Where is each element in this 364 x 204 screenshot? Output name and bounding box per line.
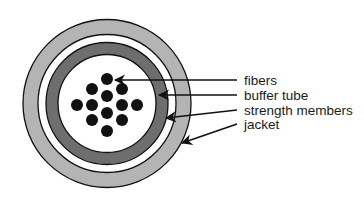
label-strength-members: strength members: [244, 103, 353, 118]
fiber: [116, 114, 128, 126]
fiber: [131, 99, 143, 111]
fiber: [86, 114, 98, 126]
fiber: [71, 99, 83, 111]
fiber: [86, 99, 98, 111]
fiber: [86, 83, 98, 95]
fiber: [116, 83, 128, 95]
jacket-arrow: [182, 124, 237, 143]
fiber: [101, 73, 113, 85]
fiber: [101, 90, 113, 102]
label-buffer-tube: buffer tube: [244, 88, 308, 103]
fiber: [116, 99, 128, 111]
cable-cross-section-diagram: fibers buffer tube strength members jack…: [0, 0, 364, 204]
fiber: [101, 125, 113, 137]
fiber: [101, 107, 113, 119]
label-fibers: fibers: [244, 73, 277, 88]
label-jacket: jacket: [243, 117, 280, 132]
